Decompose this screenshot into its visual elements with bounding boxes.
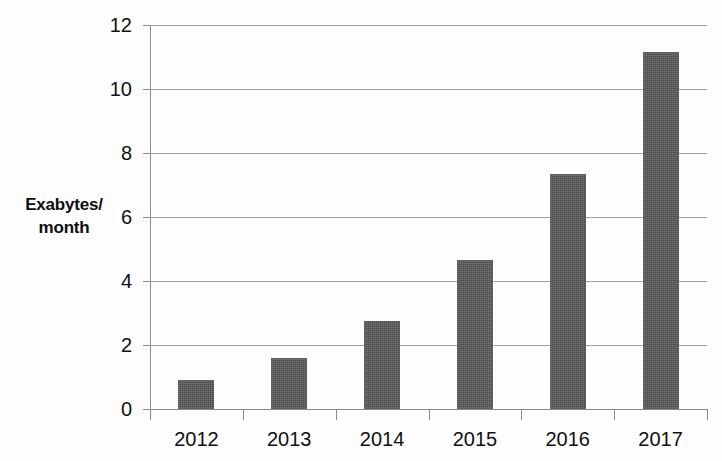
y-tick-mark [143,153,150,154]
x-tick-mark [614,409,615,420]
x-tick-label: 2012 [152,427,240,451]
plot-area [150,25,707,409]
gridline [150,281,707,282]
bar [457,260,493,409]
gridline [150,217,707,218]
x-tick-mark [336,409,337,420]
bar [271,358,307,409]
y-tick-label: 10 [96,79,132,99]
bar [364,321,400,409]
x-tick-label: 2014 [338,427,426,451]
bar [643,52,679,409]
y-tick-mark [143,345,150,346]
x-tick-mark [521,409,522,420]
y-tick-mark [143,281,150,282]
y-tick-mark [143,217,150,218]
x-tick-label: 2013 [245,427,333,451]
y-tick-label: 8 [96,143,132,163]
y-tick-mark [143,409,150,410]
y-tick-mark [143,25,150,26]
y-tick-label: 2 [96,335,132,355]
bar [550,174,586,409]
bar [178,380,214,409]
x-tick-label: 2016 [524,427,612,451]
x-tick-mark [707,409,708,420]
x-tick-mark [429,409,430,420]
y-tick-mark [143,89,150,90]
x-tick-mark [150,409,151,420]
bar-chart-figure: Exabytes/ month 024681012 20122013201420… [0,0,722,461]
x-tick-mark [243,409,244,420]
gridline [150,89,707,90]
y-tick-label: 4 [96,271,132,291]
gridline [150,153,707,154]
x-tick-label: 2015 [431,427,519,451]
y-tick-label: 0 [96,399,132,419]
y-tick-label: 6 [96,207,132,227]
gridline [150,345,707,346]
gridline [150,25,707,26]
y-tick-label: 12 [96,15,132,35]
x-tick-label: 2017 [617,427,705,451]
